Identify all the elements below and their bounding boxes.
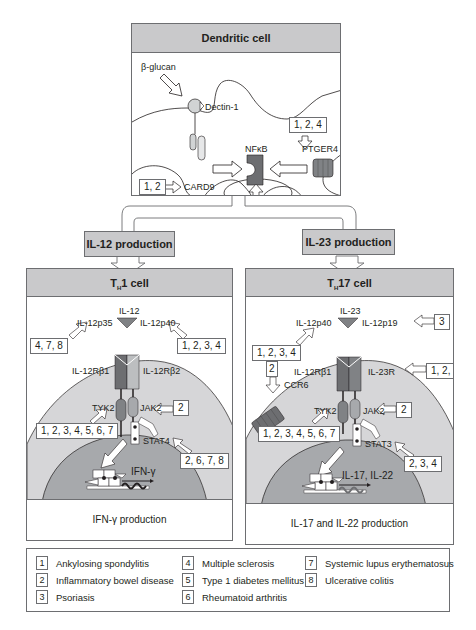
il12p40-label: IL-12p40 [296, 318, 332, 328]
th17-output-label: IL-17 and IL-22 production [246, 503, 453, 544]
il12p40-label: IL-12p40 [140, 318, 176, 328]
card9-label: CARD9 [184, 182, 215, 192]
legend-item: 6Rheumatoid arthritis [182, 590, 287, 604]
th17-cell-panel: TH17 cell [245, 268, 454, 545]
il12p19-label: IL-12p19 [362, 318, 398, 328]
il12rb1-label: IL-12Rβ1 [294, 367, 331, 377]
il23-label: IL-23 [340, 306, 361, 316]
jak2-label: JAK2 [363, 406, 385, 416]
tyk2-label: TYK2 [314, 406, 337, 416]
tyk2-label: TYK2 [92, 403, 115, 413]
disease-tag-ptger4: 1, 2, 4 [289, 117, 327, 133]
dectin-1-label: Dectin-1 [205, 102, 239, 112]
legend-item: 4Multiple sclerosis [182, 556, 274, 570]
dendritic-cell-panel: Dendritic cell β-glucan D [131, 23, 341, 196]
disease-tag-il12p40: 1, 2, 3, 4 [252, 345, 301, 361]
disease-tag-stat4: 2, 6, 7, 8 [180, 453, 229, 469]
legend-item: 5Type 1 diabetes mellitus [182, 573, 304, 587]
disease-tag-jak2: 2 [396, 402, 412, 418]
disease-legend: 1Ankylosing spondylitis 2Inflammatory bo… [26, 548, 450, 612]
nfkb-label: NFκB [245, 144, 268, 154]
disease-tag-stat3: 2, 3, 4 [404, 456, 442, 472]
il23r-label: IL-23R [368, 367, 395, 377]
disease-tag-tyk2: 1, 2, 3, 4, 5, 6, 7 [36, 423, 118, 439]
jak2-label: JAK2 [140, 403, 162, 413]
ptger4-label: PTGER4 [302, 144, 338, 154]
il12rb1-label: IL-12Rβ1 [72, 366, 109, 376]
disease-tag-ccr6: 2 [266, 361, 278, 377]
th1-output-label: IFN-γ production [27, 499, 232, 540]
il23-production-box: IL-23 production [302, 229, 395, 255]
disease-tag-il12p40: 1, 2, 3, 4 [177, 338, 226, 354]
disease-tag-tyk2: 1, 2, 3, 4, 5, 6, 7 [258, 426, 340, 442]
legend-item: 8Ulcerative colitis [305, 573, 394, 587]
disease-tag-il12p19: 3 [434, 314, 450, 330]
stat3-label: STAT3 [365, 439, 392, 449]
il12p35-label: IL-12p35 [77, 318, 113, 328]
legend-item: 1Ankylosing spondylitis [36, 556, 149, 570]
il12rb2-label: IL-12Rβ2 [143, 366, 180, 376]
disease-tag-jak2: 2 [173, 400, 189, 416]
ifn-gamma-gene-label: IFN-γ [131, 466, 155, 477]
il12-label: IL-12 [119, 306, 140, 316]
disease-tag-il12p35: 4, 7, 8 [30, 338, 68, 354]
beta-glucan-label: β-glucan [141, 62, 176, 72]
disease-tag-il23r: 1, 2, 3 [426, 363, 454, 379]
il17-il22-gene-label: IL-17, IL-22 [342, 470, 393, 481]
legend-item: 2Inflammatory bowel disease [36, 573, 174, 587]
legend-item: 7Systemic lupus erythematosus [305, 556, 454, 570]
legend-item: 3Psoriasis [36, 590, 95, 604]
disease-tag-card9: 1, 2 [139, 179, 166, 195]
ccr6-label: CCR6 [284, 380, 309, 390]
stat4-label: STAT4 [143, 436, 170, 446]
il12-production-box: IL-12 production [84, 231, 175, 257]
th1-cell-panel: TH1 cell [26, 268, 233, 541]
